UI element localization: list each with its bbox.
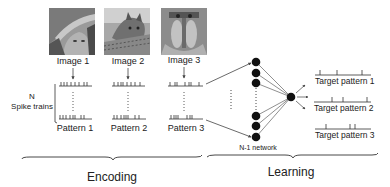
network-label: N-1 network [239, 144, 277, 151]
learning-brace [207, 153, 378, 158]
pattern-2-spikes [112, 82, 146, 119]
network-connections [256, 62, 291, 137]
pattern-1-label: Pattern 1 [57, 123, 94, 133]
target-pattern-3-spikes [315, 124, 371, 129]
image-1-label: Image 1 [57, 56, 90, 66]
encoding-section-label: Encoding [87, 170, 137, 184]
image-to-pattern-arrows [73, 67, 184, 79]
pattern-to-network-arrows [206, 63, 251, 137]
portrait-photo-icon [49, 8, 95, 55]
pattern-3-label: Pattern 3 [168, 123, 205, 133]
spike-count-label: N [10, 92, 54, 102]
image-2-label: Image 2 [112, 56, 145, 66]
output-arrows [296, 85, 308, 109]
target-pattern-1-label: Target pattern 1 [315, 76, 375, 86]
encoding-brace [22, 155, 202, 160]
image-3-label: Image 3 [168, 55, 201, 65]
target-pattern-2-spikes [314, 97, 371, 102]
spike-trains-label: N Spike trains [10, 92, 54, 112]
pattern-2-label: Pattern 2 [111, 123, 148, 133]
cat-photo-icon [104, 8, 150, 55]
target-pattern-2-label: Target pattern 2 [314, 103, 374, 113]
spike-trains-bracket [55, 84, 57, 123]
spike-trains-text: Spike trains [10, 102, 54, 112]
pattern-3-spikes [168, 82, 203, 119]
image-3-thumbnail [161, 8, 207, 55]
mandrill-photo-icon [161, 8, 207, 55]
target-pattern-3-label: Target pattern 3 [315, 130, 375, 140]
output-node [287, 93, 296, 102]
learning-section-label: Learning [268, 165, 315, 179]
input-nodes [252, 58, 261, 142]
image-1-thumbnail [49, 8, 95, 55]
target-pattern-1-spikes [315, 70, 371, 75]
pattern-1-spikes [59, 82, 92, 119]
image-2-thumbnail [104, 8, 150, 55]
